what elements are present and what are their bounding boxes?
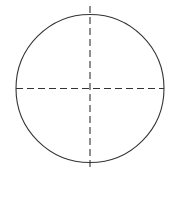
figure-canvas bbox=[0, 0, 172, 205]
circle-with-crosshair-diagram bbox=[0, 0, 172, 205]
canvas-background bbox=[0, 0, 172, 205]
